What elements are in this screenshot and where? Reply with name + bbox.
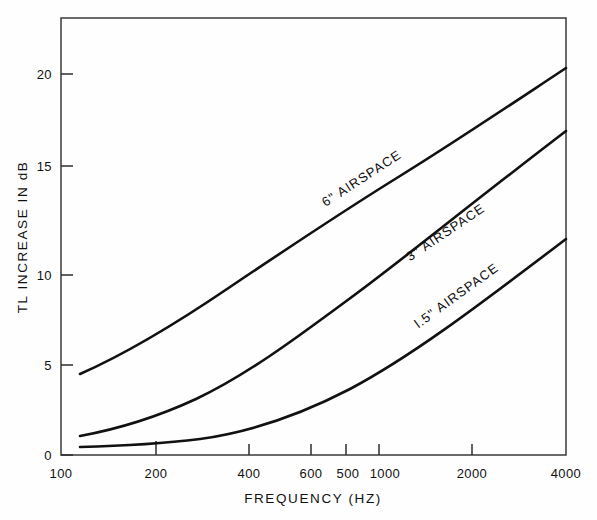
y-tick-label-5: 5 [44,358,52,373]
curve-6in-airspace [80,68,566,374]
curve-3in-airspace [80,131,566,436]
y-tick-label-0: 0 [44,448,52,463]
plot-frame [61,18,566,455]
x-axis-title: FREQUENCY (HZ) [244,491,382,506]
y-axis-tick-labels: 0 5 10 15 20 [37,67,52,463]
x-tick-label-1000: 1000 [370,466,401,481]
y-axis-ticks [61,74,73,455]
x-tick-label-100: 100 [50,466,73,481]
x-axis-tick-labels: 100 200 400 600 500 1000 2000 4000 [50,466,582,481]
x-tick-label-400: 400 [238,466,261,481]
y-tick-label-15: 15 [37,159,52,174]
chart-canvas: 0 5 10 15 20 100 200 400 600 500 1000 20… [0,0,597,520]
x-tick-label-600: 600 [300,466,323,481]
x-tick-label-200: 200 [145,466,168,481]
curve-label-3in-airspace: 3" AIRSPACE [403,200,487,264]
chart-figure: 0 5 10 15 20 100 200 400 600 500 1000 20… [0,0,597,520]
y-tick-label-10: 10 [37,268,52,283]
x-axis-ticks [156,441,472,455]
x-tick-label-2000: 2000 [457,466,488,481]
y-tick-label-20: 20 [37,67,52,82]
x-tick-label-4000: 4000 [551,466,582,481]
y-axis-title: TL INCREASE IN dB [15,161,30,314]
x-tick-label-500: 500 [337,466,360,481]
